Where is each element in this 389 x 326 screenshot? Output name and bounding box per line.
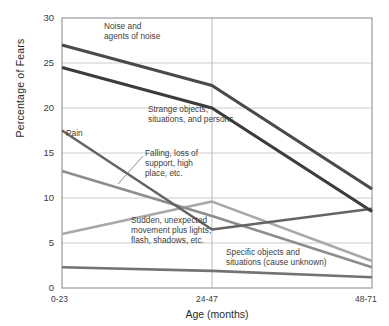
x-tick-48-71: 48-71 [355, 294, 377, 304]
x-axis-title: Age (months) [62, 308, 372, 320]
annotation-noise: Noise and agents of noise [104, 21, 160, 41]
y-axis-title: Percentage of Fears [14, 8, 26, 168]
annotation-specific-objects: Specific objects and situations (cause u… [226, 247, 327, 267]
x-tick-0-23: 0-23 [51, 294, 68, 304]
x-tick-24-47: 24-47 [196, 294, 218, 304]
y-tick-30: 30 [22, 12, 54, 23]
annotation-falling: Falling, loss of support, high place, et… [145, 148, 198, 179]
y-tick-5: 5 [22, 237, 54, 248]
annotation-pain: Pain [66, 128, 83, 138]
y-tick-0: 0 [22, 282, 54, 293]
annotation-sudden-movement: Sudden, unexpected movement plus lights,… [131, 215, 211, 246]
y-tick-10: 10 [22, 192, 54, 203]
fears-by-age-line-chart: Percentage of Fears 30 25 20 15 10 5 0 0… [0, 0, 389, 326]
y-tick-15: 15 [22, 147, 54, 158]
annotation-strange-objects: Strange objects, situations, and persons [148, 104, 233, 124]
y-tick-20: 20 [22, 102, 54, 113]
y-tick-25: 25 [22, 57, 54, 68]
